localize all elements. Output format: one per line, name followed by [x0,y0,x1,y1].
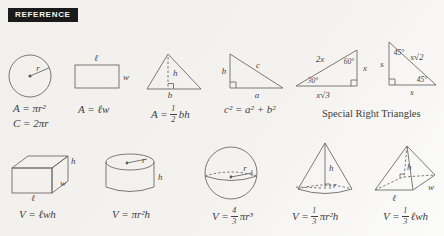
sphere-volume-pre: V = [212,211,229,222]
triangle-area-formula: A = 1 2 bh [151,104,190,124]
circle-figure: r [9,55,51,97]
tri30-hypotenuse-label: 2x [316,54,325,64]
triangle-30-60-90-figure: 2x 60° 30° x x√3 [296,50,367,100]
cone-volume-pre: V = [292,211,309,222]
cone-left-side [298,143,325,189]
box-figure: h w ℓ [12,156,76,203]
cone-volume-fraction: 1 3 [311,206,318,227]
sphere-volume-post: πr³ [240,211,253,222]
pyramid-volume-fraction: 1 3 [402,206,409,227]
fraction-denominator: 3 [403,217,407,227]
cylinder-height-label: h [158,172,163,182]
tri45-angle-top-label: 45° [394,48,405,57]
fraction-numerator: 1 [170,104,177,115]
pyramid-length-label: ℓ [392,193,396,203]
tri45-side-left-label: s [380,59,384,69]
circle-circumference-text: C = 2πr [13,118,49,129]
circle-area-text: A = πr² [13,103,46,114]
triangle-right-angle-marker [168,84,174,90]
cone-volume-formula: V = 1 3 πr²h [292,206,338,226]
triangle-area-post: bh [179,109,190,120]
pyramid-width-label: w [428,182,434,192]
circle-radius-label: r [36,63,40,73]
triangle-area-fraction: 1 2 [170,104,177,125]
triangle-figure: h b [147,54,201,100]
cone-radius-dashed-line [296,187,323,188]
cylinder-volume-text: V = πr²h [112,209,150,220]
tri30-base-label: x√3 [315,90,330,100]
cone-radius-label: r [333,180,337,190]
box-height-label: h [71,156,76,166]
right-triangle-right-angle-marker [230,82,236,88]
pyramid-volume-pre: V = [383,211,400,222]
triangle-height-label: h [173,68,178,78]
box-front-face [12,168,52,193]
box-width-label: w [60,178,66,188]
pyramid-right-angle-marker [400,174,404,178]
reference-sheet: REFERENCE r ℓ w h b b c a [0,0,444,236]
circle-area-formula: A = πr² [13,103,46,114]
cylinder-figure: r h [106,154,163,192]
fraction-denominator: 3 [232,217,236,227]
pyramid-height-label: h [407,162,412,172]
sphere-figure: r [205,147,257,199]
cylinder-radius-label: r [142,155,146,165]
right-triangle-leg-b-label: b [222,66,227,76]
right-triangle-figure: b c a [222,54,283,100]
sphere-shape [205,147,257,199]
rectangle-width-label: w [123,72,129,82]
tri30-side-x-label: x [362,63,367,73]
rectangle-shape [75,65,119,88]
right-triangle-hypotenuse-label: c [256,60,260,70]
pyramid-volume-post: ℓwh [411,211,428,222]
pyramid-figure: h ℓ w [375,146,435,203]
triangle-30-60-90-right-angle-marker [351,80,357,86]
triangle-45-45-90-figure: 45° s s√2 45° s [380,42,436,97]
right-triangle-leg-a-label: a [255,90,260,100]
sphere-volume-fraction: 4 3 [231,206,238,227]
cone-base-front [298,189,352,194]
cone-height-label: h [329,163,334,173]
fraction-numerator: 1 [402,206,409,217]
pyramid-volume-formula: V = 1 3 ℓwh [383,206,428,226]
tri45-hypotenuse-label: s√2 [411,52,424,62]
rectangle-area-formula: A = ℓw [78,104,109,115]
box-length-label: ℓ [31,193,35,203]
triangle-base-label: b [168,90,173,100]
rectangle-length-label: ℓ [94,53,98,63]
tri30-angle-60-label: 60° [344,57,355,66]
sphere-volume-formula: V = 4 3 πr³ [212,206,253,226]
box-volume-formula: V = ℓwh [19,209,56,220]
fraction-numerator: 1 [311,206,318,217]
tri45-angle-right-label: 45° [417,75,428,84]
tri30-angle-30-label: 30° [307,76,319,85]
sphere-equator-back [205,172,257,176]
triangle-area-pre: A = [151,109,168,120]
triangle-30-60-90-shape [296,50,357,86]
rectangle-area-text: A = ℓw [78,104,109,115]
pythagorean-text: c² = a² + b² [224,104,276,115]
rectangle-figure: ℓ w [75,53,129,88]
special-right-triangles-caption: Special Right Triangles [322,108,421,119]
cylinder-bottom [106,187,154,192]
fraction-denominator: 3 [312,217,316,227]
circle-circumference-formula: C = 2πr [13,118,49,129]
sphere-radius-label: r [243,163,247,173]
cylinder-volume-formula: V = πr²h [112,209,150,220]
box-volume-text: V = ℓwh [19,209,56,220]
fraction-numerator: 4 [231,206,238,217]
cone-figure: h r [296,143,352,194]
fraction-denominator: 2 [171,115,175,125]
triangle-45-45-90-right-angle-marker [389,79,395,85]
tri45-base-label: s [410,87,414,97]
pythagorean-formula: c² = a² + b² [224,104,276,115]
sphere-radius-line [231,173,252,177]
cone-volume-post: πr²h [320,211,339,222]
